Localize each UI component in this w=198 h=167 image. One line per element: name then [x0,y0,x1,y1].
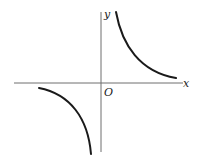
x-axis-label: x [183,77,190,90]
origin-label: O [104,86,113,99]
y-axis-label: y [103,8,111,21]
curve-branch-third-quadrant [39,88,91,154]
curve-branch-first-quadrant [116,12,176,78]
hyperbola-figure: x y O [0,0,198,167]
